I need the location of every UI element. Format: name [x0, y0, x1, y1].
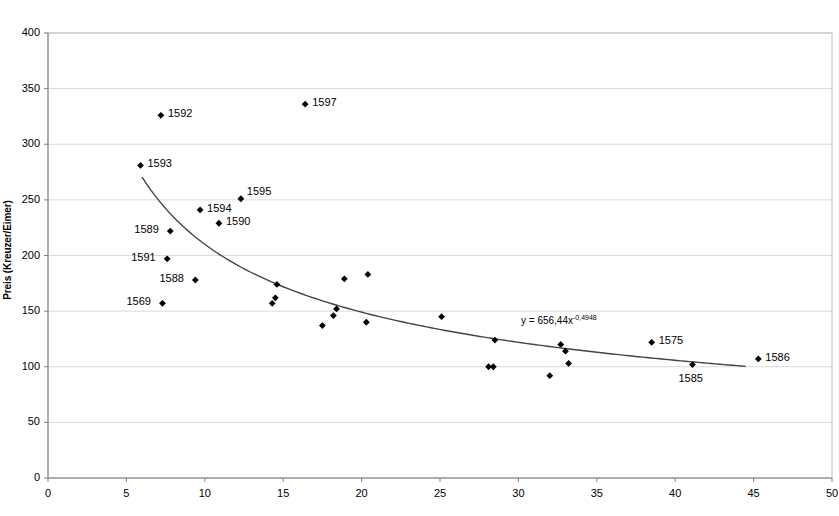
data-point-marker: [192, 277, 199, 284]
data-point-marker: [490, 363, 497, 370]
data-point-label: 1589: [134, 224, 158, 235]
y-axis-tick-label: 300: [6, 138, 40, 149]
data-point-label: 1597: [312, 97, 336, 108]
data-point-marker: [438, 313, 445, 320]
x-axis-tick-label: 20: [347, 488, 377, 499]
y-axis-tick-label: 200: [6, 250, 40, 261]
y-axis-tick-label: 400: [6, 27, 40, 38]
data-point-label: 1575: [659, 335, 683, 346]
data-point-label: 1593: [148, 158, 172, 169]
y-axis-tick-label: 100: [6, 361, 40, 372]
scatter-chart: Preis (Kreuzer/Eimer) 400350300250200150…: [0, 0, 839, 516]
data-point-label: 1595: [247, 186, 271, 197]
data-point-label: 1592: [168, 108, 192, 119]
trendline: [142, 177, 746, 366]
data-point-marker: [341, 275, 348, 282]
data-point-label: 1586: [765, 352, 789, 363]
data-point-marker: [491, 337, 498, 344]
data-point-marker: [197, 206, 204, 213]
x-axis-tick-label: 35: [582, 488, 612, 499]
x-axis-tick-label: 45: [739, 488, 769, 499]
data-point-marker: [274, 281, 281, 288]
data-point-marker: [546, 372, 553, 379]
data-point-label: 1569: [126, 296, 150, 307]
data-point-marker: [557, 341, 564, 348]
y-axis-tick-label: 50: [6, 416, 40, 427]
data-point-label: 1588: [159, 273, 183, 284]
data-point-label: 1594: [207, 203, 231, 214]
data-point-marker: [164, 255, 171, 262]
x-axis-tick-label: 15: [268, 488, 298, 499]
data-point-marker: [363, 319, 370, 326]
data-point-marker: [302, 101, 309, 108]
data-point-marker: [648, 339, 655, 346]
data-point-marker: [159, 300, 166, 307]
data-point-marker: [269, 300, 276, 307]
equation-exponent: -0,4948: [573, 314, 597, 321]
x-axis-tick-label: 40: [660, 488, 690, 499]
x-axis-tick-label: 25: [425, 488, 455, 499]
trendline-equation: y = 656,44x-0,4948: [521, 315, 597, 326]
data-point-marker: [157, 112, 164, 119]
data-point-marker: [167, 228, 174, 235]
data-point-label: 1590: [226, 216, 250, 227]
y-axis-tick-label: 150: [6, 305, 40, 316]
plot-canvas: [0, 0, 839, 516]
x-axis-ticks: [48, 478, 832, 482]
x-axis-tick-label: 0: [33, 488, 63, 499]
x-axis-tick-label: 50: [817, 488, 839, 499]
data-point-marker: [237, 195, 244, 202]
data-point-label: 1591: [131, 252, 155, 263]
data-point-marker: [364, 271, 371, 278]
y-axis-tick-label: 250: [6, 194, 40, 205]
y-axis-tick-label: 350: [6, 83, 40, 94]
data-point-marker: [565, 360, 572, 367]
data-point-label: 1585: [678, 373, 702, 384]
data-point-marker: [137, 162, 144, 169]
data-point-marker: [755, 356, 762, 363]
y-axis-tick-label: 0: [6, 472, 40, 483]
y-axis-ticks: [44, 33, 48, 478]
data-point-marker: [330, 312, 337, 319]
x-axis-tick-label: 5: [111, 488, 141, 499]
data-point-marker: [216, 220, 223, 227]
x-axis-tick-label: 30: [503, 488, 533, 499]
data-point-marker: [272, 294, 279, 301]
equation-text: y = 656,44x: [521, 315, 573, 326]
data-point-marker: [319, 322, 326, 329]
x-axis-tick-label: 10: [190, 488, 220, 499]
